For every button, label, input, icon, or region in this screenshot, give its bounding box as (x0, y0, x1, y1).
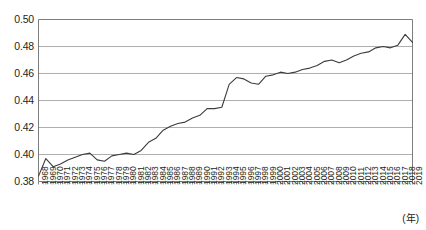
y-axis-tick-label: 0.48 (0, 40, 34, 52)
y-axis-tick-label: 0.46 (0, 67, 34, 79)
y-axis-tick-label: 0.50 (0, 13, 34, 25)
x-axis-tick-label: 2019 (415, 166, 424, 185)
line-chart: 0.500.480.460.440.420.400.38 19681969197… (0, 0, 426, 230)
y-axis-tick-label: 0.44 (0, 94, 34, 106)
y-axis-tick-label: 0.40 (0, 148, 34, 160)
y-axis-tick-label: 0.42 (0, 121, 34, 133)
x-axis-labels: 1968196919701971197219731974197519761977… (38, 184, 412, 224)
x-axis-unit-label: (年) (402, 210, 419, 225)
y-axis-tick-label: 0.38 (0, 175, 34, 187)
